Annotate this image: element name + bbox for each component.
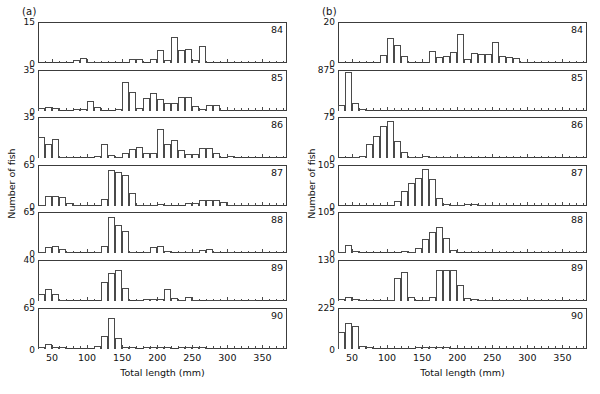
x-axis-title-a: Total length (mm) [38, 367, 287, 378]
x-tick-minor [345, 299, 346, 302]
x-tick-major [387, 202, 388, 206]
x-tick-minor [513, 156, 514, 159]
x-tick-major [352, 345, 353, 349]
x-tick-minor [220, 251, 221, 254]
x-tick-major [192, 107, 193, 111]
x-tick-major [157, 345, 158, 349]
x-tick-minor [248, 346, 249, 349]
x-tick-major [192, 249, 193, 253]
x-tick-major [262, 107, 263, 111]
x-tick-minor [73, 346, 74, 349]
histogram-subpanel-87: 65087 [38, 165, 287, 206]
x-tick-minor [185, 299, 186, 302]
x-tick-minor [115, 108, 116, 111]
x-tick-minor [255, 251, 256, 254]
x-tick-minor [241, 251, 242, 254]
x-tick-label: 350 [553, 352, 571, 363]
x-tick-minor [478, 346, 479, 349]
x-tick-minor [80, 251, 81, 254]
histogram-subpanel-84: 20084 [338, 22, 587, 63]
x-tick-minor [583, 203, 584, 206]
x-tick-minor [380, 203, 381, 206]
histogram-bar [401, 272, 408, 301]
x-tick-minor [129, 203, 130, 206]
x-tick-major [352, 249, 353, 253]
x-tick-minor [269, 346, 270, 349]
x-axis-ticks [338, 155, 587, 158]
x-tick-minor [178, 251, 179, 254]
bar-layer [38, 70, 287, 111]
x-tick-minor [276, 299, 277, 302]
x-tick-minor [213, 251, 214, 254]
x-tick-minor [345, 156, 346, 159]
x-tick-minor [171, 108, 172, 111]
x-tick-minor [583, 108, 584, 111]
x-tick-minor [171, 156, 172, 159]
y-tick-label-max: 35 [24, 65, 35, 75]
x-tick-major [262, 249, 263, 253]
x-tick-major [457, 107, 458, 111]
x-tick-minor [394, 251, 395, 254]
x-tick-minor [45, 61, 46, 64]
x-tick-minor [569, 251, 570, 254]
x-tick-minor [506, 108, 507, 111]
x-tick-minor [450, 346, 451, 349]
x-tick-minor [206, 346, 207, 349]
histogram-bar [415, 178, 422, 206]
bar-layer [38, 308, 287, 349]
bar-layer [38, 165, 287, 206]
x-tick-major [562, 249, 563, 253]
x-tick-minor [555, 203, 556, 206]
x-tick-major [492, 202, 493, 206]
x-tick-minor [213, 346, 214, 349]
x-tick-minor [548, 108, 549, 111]
x-tick-label: 300 [518, 352, 536, 363]
x-tick-major [87, 154, 88, 158]
x-tick-minor [206, 203, 207, 206]
x-tick-minor [394, 108, 395, 111]
x-tick-minor [541, 156, 542, 159]
y-tick-label-zero: 0 [29, 345, 35, 355]
x-tick-minor [520, 346, 521, 349]
x-tick-minor [80, 346, 81, 349]
x-tick-major [52, 297, 53, 301]
x-tick-major [262, 154, 263, 158]
bar-layer [38, 260, 287, 301]
x-tick-minor [499, 251, 500, 254]
x-tick-minor [164, 299, 165, 302]
x-tick-minor [129, 346, 130, 349]
x-tick-minor [248, 251, 249, 254]
x-tick-minor [248, 203, 249, 206]
x-tick-minor [59, 299, 60, 302]
x-tick-minor [185, 203, 186, 206]
x-tick-minor [94, 251, 95, 254]
x-tick-minor [380, 299, 381, 302]
x-tick-label: 200 [448, 352, 466, 363]
x-tick-minor [443, 108, 444, 111]
x-tick-major [122, 345, 123, 349]
y-tick-label-max: 65 [24, 303, 35, 313]
x-tick-major [422, 249, 423, 253]
x-tick-minor [478, 108, 479, 111]
x-tick-minor [73, 251, 74, 254]
x-tick-minor [234, 251, 235, 254]
x-tick-minor [380, 156, 381, 159]
x-tick-minor [206, 61, 207, 64]
x-tick-minor [401, 108, 402, 111]
x-tick-major [192, 345, 193, 349]
x-tick-minor [366, 108, 367, 111]
x-tick-minor [583, 299, 584, 302]
x-tick-minor [534, 203, 535, 206]
x-tick-label: 300 [218, 352, 236, 363]
x-tick-major [262, 59, 263, 63]
x-tick-minor [450, 156, 451, 159]
x-tick-major [227, 345, 228, 349]
panel-group-b: (b) Number of fish 200848750857508610508… [300, 0, 600, 394]
x-tick-major [87, 202, 88, 206]
x-tick-minor [276, 346, 277, 349]
x-tick-minor [485, 299, 486, 302]
histogram-subpanel-90: 225090 [338, 308, 587, 349]
x-tick-major [527, 59, 528, 63]
x-tick-minor [45, 108, 46, 111]
x-tick-minor [185, 108, 186, 111]
